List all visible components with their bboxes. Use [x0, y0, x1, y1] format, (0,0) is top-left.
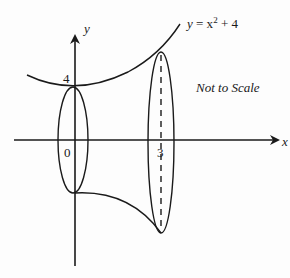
x-axis-label: x [281, 134, 288, 149]
curve-eq-rest: + 4 [218, 16, 239, 31]
tick-label-4: 4 [63, 71, 70, 86]
tick-label-3: 3 [157, 145, 164, 160]
y-axis-label: y [82, 21, 90, 36]
diagram-canvas: y x 4 0 3 y = x2 + 4 Not to Scale [0, 0, 290, 278]
lower-curve [75, 193, 161, 233]
not-to-scale-note: Not to Scale [195, 80, 260, 95]
curve-eq-mid: = x [193, 16, 214, 31]
tick-label-0: 0 [64, 145, 71, 160]
diagram-svg: y x 4 0 3 y = x2 + 4 Not to Scale [0, 0, 290, 278]
curve-equation-label: y = x2 + 4 [185, 15, 238, 31]
